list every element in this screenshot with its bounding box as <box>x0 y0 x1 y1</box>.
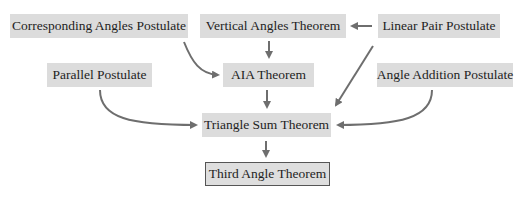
node-linear-pair-postulate: Linear Pair Postulate <box>378 14 500 38</box>
node-parallel-postulate: Parallel Postulate <box>47 63 152 87</box>
node-vertical-angles-theorem: Vertical Angles Theorem <box>200 14 346 38</box>
arrow-parallel-to-trisum <box>100 90 196 125</box>
arrow-linear-to-trisum <box>336 46 373 105</box>
node-angle-addition-postulate: Angle Addition Postulate <box>377 63 513 87</box>
node-corresponding-angles-postulate: Corresponding Angles Postulate <box>10 14 188 38</box>
node-aia-theorem: AIA Theorem <box>223 63 314 87</box>
node-third-angle-theorem: Third Angle Theorem <box>205 162 330 186</box>
arrow-angleadd-to-trisum <box>338 90 432 125</box>
node-triangle-sum-theorem: Triangle Sum Theorem <box>202 113 331 137</box>
arrow-corresponding-to-aia <box>184 42 218 75</box>
